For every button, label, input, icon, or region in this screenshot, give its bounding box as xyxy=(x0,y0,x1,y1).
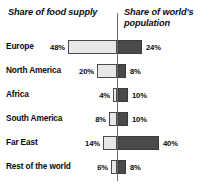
value-label-world-population: 8% xyxy=(130,66,141,77)
chart-row: South America8%10% xyxy=(0,110,213,128)
bar-world-population xyxy=(118,64,126,78)
chart-row: North America20%8% xyxy=(0,62,213,80)
bar-world-population xyxy=(118,40,142,54)
chart-row: Africa4%10% xyxy=(0,86,213,104)
value-label-world-population: 10% xyxy=(132,90,147,101)
region-label: Rest of the world xyxy=(6,161,71,172)
value-label-world-population: 10% xyxy=(132,114,147,125)
region-label: Europe xyxy=(6,41,34,52)
bar-world-population xyxy=(118,136,159,150)
chart-header-left: Share of food supply xyxy=(8,7,108,18)
bar-food-supply xyxy=(103,136,117,150)
value-label-world-population: 8% xyxy=(130,162,141,173)
region-label: Far East xyxy=(6,137,38,148)
value-label-food-supply: 8% xyxy=(95,114,106,125)
region-label: Africa xyxy=(6,89,29,100)
region-label: South America xyxy=(6,113,62,124)
bar-food-supply xyxy=(113,88,117,102)
bar-food-supply xyxy=(109,112,117,126)
chart-header-right: Share of world's population xyxy=(124,7,212,28)
value-label-world-population: 24% xyxy=(146,42,161,53)
value-label-food-supply: 6% xyxy=(97,162,108,173)
value-label-food-supply: 4% xyxy=(99,90,110,101)
value-label-food-supply: 20% xyxy=(79,66,94,77)
bar-world-population xyxy=(118,112,128,126)
chart-row: Europe48%24% xyxy=(0,38,213,56)
chart-row: Far East14%40% xyxy=(0,134,213,152)
value-label-food-supply: 48% xyxy=(50,42,65,53)
chart-row: Rest of the world6%8% xyxy=(0,158,213,176)
value-label-food-supply: 14% xyxy=(85,138,100,149)
value-label-world-population: 40% xyxy=(163,138,178,149)
diverging-bar-chart: Share of food supply Share of world's po… xyxy=(0,0,213,185)
bar-food-supply xyxy=(111,160,117,174)
bar-world-population xyxy=(118,160,126,174)
bar-food-supply xyxy=(97,64,117,78)
region-label: North America xyxy=(6,65,61,76)
bar-world-population xyxy=(118,88,128,102)
bar-food-supply xyxy=(68,40,117,54)
